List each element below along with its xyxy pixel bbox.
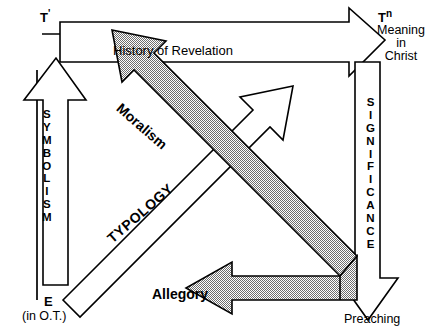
node-label-e: E (44, 295, 53, 309)
node-caption-in-ot: (in O.T.) (22, 310, 66, 323)
significance-letter: G (366, 122, 375, 135)
arrow-label-allegory: Allegory (152, 287, 208, 302)
symbolism-letter: L (43, 172, 50, 185)
significance-letter: I (369, 109, 372, 122)
symbolism-letter: M (42, 134, 52, 147)
significance-letter: I (369, 173, 372, 186)
symbolism-letter: S (43, 198, 51, 211)
significance-letter: F (367, 160, 374, 173)
significance-letter: N (366, 212, 374, 225)
significance-letter: S (367, 96, 375, 109)
symbolism-arrow (24, 58, 86, 300)
significance-letter: N (366, 135, 374, 148)
diagram-canvas: T' Tn Meaning in Christ E (in O.T.) Prea… (0, 0, 431, 336)
significance-letter: E (367, 238, 375, 251)
symbolism-letter: I (45, 185, 48, 198)
significance-letter: I (369, 148, 372, 161)
symbolism-letter: B (43, 147, 51, 160)
symbolism-letter: O (42, 160, 51, 173)
significance-letter: C (366, 186, 374, 199)
significance-letter: C (366, 225, 374, 238)
symbolism-letter: Y (43, 121, 51, 134)
node-caption-preaching: Preaching (344, 313, 400, 326)
arrow-label-symbolism: S Y M B O L I S M (42, 108, 52, 224)
history-of-revelation-arrow (42, 8, 385, 76)
symbolism-letter: M (42, 211, 52, 224)
symbolism-letter: S (43, 108, 51, 121)
arrow-label-significance: S I G N I F I C A N C E (366, 96, 375, 251)
significance-letter: A (366, 199, 374, 212)
arrow-label-history-of-revelation: History of Revelation (113, 44, 233, 58)
node-label-t-prime: T' (40, 9, 50, 25)
node-caption-meaning-in-christ: Meaning in Christ (372, 24, 430, 63)
